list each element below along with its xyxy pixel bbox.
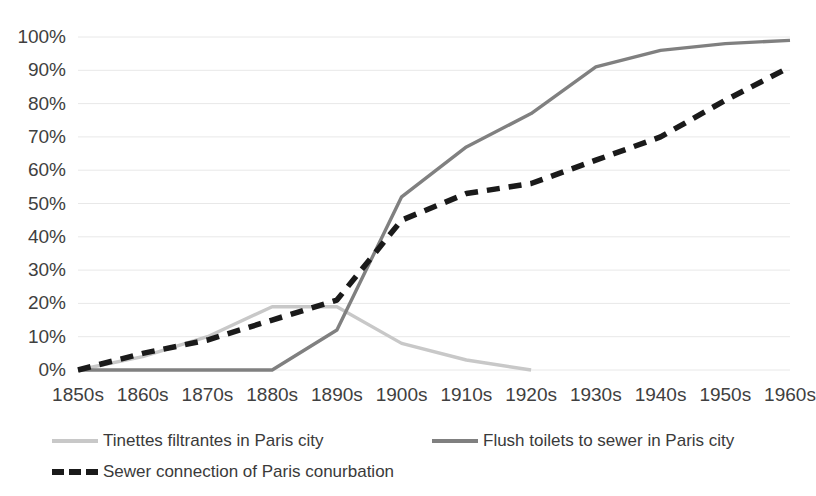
y-tick-label: 90% — [28, 59, 66, 81]
x-tick-label: 1950s — [699, 384, 751, 406]
y-tick-label: 20% — [28, 292, 66, 314]
x-tick-label: 1890s — [311, 384, 363, 406]
x-tick-label: 1920s — [505, 384, 557, 406]
y-tick-label: 60% — [28, 159, 66, 181]
legend-item-tinettes[interactable]: Tinettes filtrantes in Paris city — [52, 432, 323, 449]
y-tick-label: 100% — [17, 26, 66, 48]
y-tick-label: 30% — [28, 259, 66, 281]
gridlines — [78, 37, 790, 370]
legend-label-sewer-connection: Sewer connection of Paris conurbation — [103, 463, 394, 480]
y-tick-label: 80% — [28, 93, 66, 115]
legend-swatch-flush-toilets-icon — [432, 434, 478, 448]
legend-swatch-tinettes-icon — [52, 434, 98, 448]
x-tick-label: 1850s — [52, 384, 104, 406]
y-tick-label: 70% — [28, 126, 66, 148]
x-tick-label: 1960s — [764, 384, 816, 406]
x-tick-label: 1910s — [440, 384, 492, 406]
legend-item-sewer-connection[interactable]: Sewer connection of Paris conurbation — [52, 463, 394, 480]
y-tick-label: 10% — [28, 326, 66, 348]
x-tick-label: 1930s — [570, 384, 622, 406]
x-tick-label: 1940s — [635, 384, 687, 406]
legend-label-flush-toilets: Flush toilets to sewer in Paris city — [483, 432, 734, 449]
y-tick-label: 40% — [28, 226, 66, 248]
chart-legend: Tinettes filtrantes in Paris city Flush … — [0, 418, 814, 496]
x-tick-label: 1900s — [376, 384, 428, 406]
series-lines — [78, 40, 790, 370]
x-tick-label: 1860s — [117, 384, 169, 406]
y-tick-label: 0% — [39, 359, 66, 381]
legend-swatch-sewer-connection-icon — [52, 465, 98, 479]
x-tick-label: 1880s — [246, 384, 298, 406]
legend-label-tinettes: Tinettes filtrantes in Paris city — [103, 432, 323, 449]
x-tick-label: 1870s — [182, 384, 234, 406]
y-tick-label: 50% — [28, 193, 66, 215]
legend-item-flush-toilets[interactable]: Flush toilets to sewer in Paris city — [432, 432, 734, 449]
